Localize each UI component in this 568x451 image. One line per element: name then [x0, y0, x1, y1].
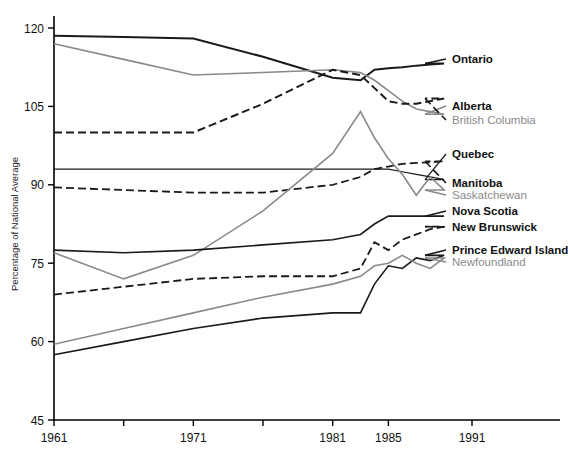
- y-axis-title-text: Percentage of National Average: [9, 157, 20, 291]
- series-line-new-brunswick: [54, 227, 444, 295]
- series-label-manitoba: Manitoba: [452, 177, 503, 189]
- leader-prince-edward-island: [425, 250, 446, 255]
- series-line-manitoba: [54, 161, 444, 192]
- x-tick-label-1991: 1991: [459, 431, 486, 445]
- y-tick-label-45: 45: [31, 414, 45, 428]
- series-label-new-brunswick: New Brunswick: [452, 221, 538, 233]
- series-label-british-columbia: British Columbia: [452, 114, 536, 126]
- series-line-prince-edward-island: [54, 255, 444, 354]
- y-tick-label-75: 75: [31, 257, 45, 271]
- axis-lines: [54, 16, 560, 420]
- x-tick-label-1961: 1961: [41, 431, 68, 445]
- series-lines: [54, 36, 444, 355]
- x-tick-label-1985: 1985: [375, 431, 402, 445]
- y-axis-tick-labels: 45607590105120: [24, 22, 44, 428]
- y-tick-label-105: 105: [24, 100, 44, 114]
- series-label-ontario: Ontario: [452, 53, 493, 65]
- series-line-quebec: [54, 169, 444, 179]
- y-axis-title: Percentage of National Average: [9, 157, 20, 291]
- x-axis-tick-labels: 19611971198119851991: [41, 431, 486, 445]
- leader-quebec: [425, 154, 446, 180]
- series-label-newfoundland: Newfoundland: [452, 256, 526, 268]
- line-chart: 45607590105120 19611971198119851991 Perc…: [0, 0, 568, 451]
- series-line-saskatchewan: [54, 112, 444, 279]
- y-tick-label-90: 90: [31, 178, 45, 192]
- series-line-nova-scotia: [54, 216, 444, 253]
- y-tick-label-120: 120: [24, 22, 44, 36]
- leader-alberta: [425, 99, 446, 120]
- series-label-nova-scotia: Nova Scotia: [452, 205, 518, 217]
- series-label-prince-edward-island: Prince Edward Island: [452, 244, 568, 256]
- chart-canvas: 45607590105120 19611971198119851991 Perc…: [0, 0, 568, 451]
- series-line-alberta: [54, 70, 444, 133]
- series-label-saskatchewan: Saskatchewan: [452, 189, 527, 201]
- series-label-quebec: Quebec: [452, 148, 495, 160]
- series-line-british-columbia: [54, 44, 444, 115]
- x-tick-label-1971: 1971: [180, 431, 207, 445]
- y-tick-label-60: 60: [31, 335, 45, 349]
- series-labels: OntarioAlbertaBritish ColumbiaQuebecMani…: [452, 53, 568, 268]
- x-tick-label-1981: 1981: [319, 431, 346, 445]
- series-label-alberta: Alberta: [452, 100, 492, 112]
